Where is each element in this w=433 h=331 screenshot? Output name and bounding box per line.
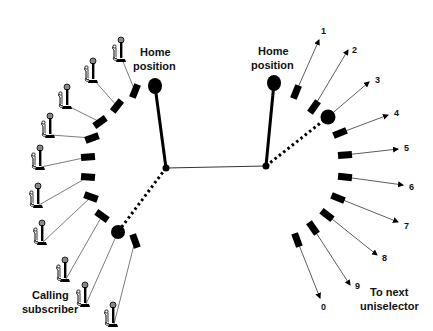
output-arrow bbox=[340, 115, 388, 133]
bank-contact bbox=[338, 173, 353, 181]
left-home-label-1: Home bbox=[140, 46, 171, 58]
subscriber-wire bbox=[39, 177, 88, 205]
right-home-label-1: Home bbox=[258, 45, 289, 57]
subscriber-wire bbox=[66, 216, 102, 279]
output-number-label: 8 bbox=[382, 253, 387, 263]
telephone-icon bbox=[77, 282, 90, 307]
bank-contact bbox=[84, 132, 100, 143]
output-number-label: 3 bbox=[375, 75, 380, 85]
wiper-pivot bbox=[163, 165, 170, 172]
telephone-icon bbox=[42, 113, 55, 138]
bank-contact bbox=[332, 127, 348, 139]
next-uniselector-label-1: To next bbox=[370, 286, 409, 298]
wiper-pivot bbox=[263, 163, 270, 170]
bank-contact bbox=[290, 84, 302, 100]
output-arrow bbox=[345, 177, 403, 185]
left-home-label-2: position bbox=[133, 60, 176, 72]
output-number-label: 6 bbox=[409, 182, 414, 192]
subscriber-wire bbox=[114, 241, 135, 324]
bank-contact bbox=[307, 99, 321, 114]
next-uniselector-label-2: uniselector bbox=[360, 300, 419, 312]
telephone-icon bbox=[105, 302, 118, 327]
telephone-icon bbox=[59, 84, 72, 109]
bank-contact bbox=[92, 115, 107, 129]
active-wiper-dotted bbox=[266, 117, 328, 166]
active-wiper-dotted bbox=[118, 168, 166, 232]
output-number-label: 4 bbox=[394, 108, 399, 118]
bank-contact bbox=[83, 191, 99, 202]
telephone-icon bbox=[85, 58, 98, 83]
output-arrow bbox=[297, 240, 320, 298]
subscriber-wire bbox=[86, 232, 118, 304]
output-number-label: 0 bbox=[321, 302, 326, 312]
output-arrow bbox=[328, 82, 369, 117]
subscriber-wire bbox=[43, 197, 91, 242]
output-arrow bbox=[296, 40, 319, 92]
output-arrow bbox=[345, 149, 398, 155]
output-number-label: 1 bbox=[321, 26, 326, 36]
output-number-label: 5 bbox=[404, 143, 409, 153]
output-number-label: 2 bbox=[352, 45, 357, 55]
bank-contact bbox=[306, 220, 320, 235]
home-wiper-ball bbox=[267, 75, 281, 91]
uniselector-diagram: 1234567890 Home position Home position C… bbox=[0, 0, 433, 331]
output-number-label: 9 bbox=[355, 281, 360, 291]
subscriber-wire bbox=[41, 157, 88, 167]
calling-subscriber-label-2: subscriber bbox=[22, 303, 79, 315]
output-arrow bbox=[338, 198, 398, 222]
bank-contact bbox=[129, 233, 140, 249]
telephone-icon bbox=[113, 37, 126, 62]
bank-contact bbox=[129, 83, 141, 99]
left-uniselector bbox=[30, 37, 170, 327]
calling-subscriber-label-1: Calling bbox=[32, 289, 69, 301]
output-arrow bbox=[313, 228, 350, 285]
output-arrow bbox=[327, 215, 377, 255]
bank-contact bbox=[291, 232, 302, 248]
bank-contact bbox=[338, 151, 353, 159]
interconnect-line bbox=[166, 166, 266, 168]
telephone-icon bbox=[34, 220, 47, 245]
home-wiper-arm bbox=[155, 86, 166, 168]
subscriber-wire bbox=[94, 80, 117, 106]
subscriber-wire bbox=[68, 106, 100, 122]
bank-contact bbox=[319, 208, 334, 222]
home-wiper-ball bbox=[148, 78, 162, 94]
right-home-label-2: position bbox=[251, 59, 294, 71]
telephone-icon bbox=[57, 257, 70, 282]
bank-contact bbox=[330, 192, 346, 204]
output-number-label: 7 bbox=[404, 221, 409, 231]
output-arrow bbox=[314, 50, 348, 107]
bank-contact bbox=[81, 173, 96, 181]
bank-contact bbox=[81, 153, 96, 161]
bank-contact bbox=[94, 209, 109, 223]
home-wiper-arm bbox=[266, 83, 274, 166]
